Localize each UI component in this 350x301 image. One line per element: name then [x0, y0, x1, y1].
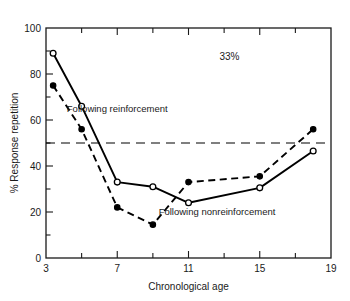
data-point — [310, 127, 315, 132]
data-point — [257, 174, 262, 179]
y-axis-tick-labels: 020406080100 — [24, 23, 41, 264]
line-chart-canvas: 020406080100 37111519 Chronological age … — [0, 0, 350, 301]
data-point — [50, 50, 56, 56]
y-tick-label: 100 — [24, 23, 41, 34]
x-tick-label: 7 — [114, 263, 120, 274]
y-tick-label: 60 — [30, 115, 42, 126]
series-label-reinforcement: Following reinforcement — [67, 103, 168, 114]
y-axis-title: % Response repetition — [9, 93, 20, 194]
x-tick-label: 3 — [43, 263, 49, 274]
chart-figure: 020406080100 37111519 Chronological age … — [0, 0, 350, 301]
x-tick-label: 11 — [183, 263, 194, 274]
series-label-nonreinforcement: Following nonreinforcement — [159, 206, 276, 217]
x-tick-label: 19 — [325, 263, 337, 274]
data-point — [186, 200, 192, 206]
y-tick-label: 0 — [35, 253, 41, 264]
x-tick-label: 15 — [254, 263, 266, 274]
x-axis-tick-labels: 37111519 — [43, 263, 337, 274]
data-point — [310, 148, 316, 154]
x-axis-title: Chronological age — [148, 281, 229, 292]
data-point — [50, 83, 55, 88]
y-tick-label: 80 — [30, 69, 42, 80]
data-point — [150, 184, 156, 190]
data-point — [79, 127, 84, 132]
percent-annotation: 33% — [219, 51, 239, 62]
data-point — [115, 205, 120, 210]
y-tick-label: 40 — [30, 161, 42, 172]
y-tick-label: 20 — [30, 207, 42, 218]
data-point — [257, 185, 263, 191]
data-point — [114, 179, 120, 185]
data-point — [186, 179, 191, 184]
data-point — [150, 222, 155, 227]
